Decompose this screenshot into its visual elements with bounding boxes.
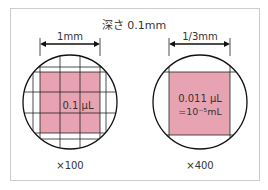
- right-volume-line2: =10⁻⁵mL: [178, 106, 222, 117]
- left-volume-label: 0.1 μL: [62, 100, 93, 111]
- right-magnification: ×400: [186, 160, 213, 171]
- depth-title: 深さ 0.1mm: [102, 19, 166, 32]
- right-volume-line1: 0.011 μL: [178, 93, 222, 104]
- counting-chamber-diagram: 深さ 0.1mm 1mm 0.1: [0, 0, 268, 190]
- left-dimension-label: 1mm: [57, 31, 83, 42]
- right-dimension-label: 1/3mm: [182, 31, 218, 42]
- left-magnification: ×100: [56, 160, 83, 171]
